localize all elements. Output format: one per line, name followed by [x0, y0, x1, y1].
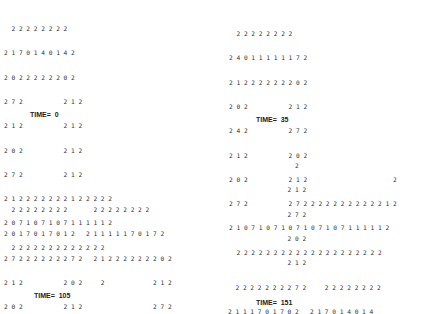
grid-row: 2 2 2 2 2 2 2 2	[229, 30, 397, 38]
panel-time-105: 2 2 2 2 2 2 2 2 2 2 2 2 2 2 2 2 2 0 1 7 …	[4, 190, 172, 314]
grid-row: 2 0 2 2 2 2 2 2 0 2	[4, 74, 112, 82]
grid-row: 2 4 0 1 1 1 1 1 1 7 2	[229, 54, 397, 62]
grid-row: 2 1 2 2 1 2	[4, 122, 112, 130]
grid-row: 2 1 2 2 2 2 2 2 2 0 2	[229, 79, 397, 87]
grid-row: 2 1 2 2 0 2 2 2 1 2	[4, 279, 172, 287]
grid-row: 2 1 2	[228, 186, 425, 194]
grid-row: 2 0 2 2 1 2	[4, 147, 112, 155]
grid-row: 2 2 2 2 2 2 2 2 7 2 2 2 2 2 2 2 2 2	[228, 284, 425, 292]
grid-row: 2 1 2	[228, 259, 425, 267]
time-label: TIME= 0	[30, 111, 59, 118]
panel-time-151: 2 2 1 2 2 7 2 2 0 2 2 1 2 2 2 2 2 2 2 2 …	[228, 146, 425, 314]
grid-row: 2 2 2 2 2 2 2 2	[4, 25, 112, 33]
cell-grid: 2 2 1 2 2 7 2 2 0 2 2 1 2 2 2 2 2 2 2 2 …	[228, 146, 425, 314]
grid-row: 2 7 2 2 1 2	[4, 98, 112, 106]
grid-row: 2 0 1 7 0 1 7 0 1 2 2 1 1 1 1 1 7 0 1 7 …	[4, 230, 172, 238]
grid-row: 2 7 2 2 1 2	[4, 171, 112, 179]
time-label: TIME= 105	[34, 292, 70, 299]
time-label: TIME= 35	[256, 116, 288, 123]
grid-row: 2 0 2	[228, 235, 425, 243]
grid-row: 2 7 2	[228, 211, 425, 219]
cell-grid: 2 2 2 2 2 2 2 2 2 2 2 2 2 2 2 2 2 0 1 7 …	[4, 190, 172, 314]
grid-row: 2 2 2 2 2 2 2 2 2 2 2 2 2 2 2 2	[4, 206, 172, 214]
grid-row: 2	[228, 162, 425, 170]
grid-row: 2 1 7 0 1 4 0 1 4 2	[4, 49, 112, 57]
grid-row: 2 1 1 1 7 0 1 7 0 2 2 1 7 0 1 4 0 1 4	[228, 308, 425, 314]
time-label: TIME= 151	[256, 299, 292, 306]
grid-row: 2 0 2 2 1 2	[229, 103, 397, 111]
grid-row: 2 4 2 2 7 2	[229, 127, 397, 135]
grid-row: 2 0 2 2 1 2 2 7 2	[4, 303, 172, 311]
grid-row: 2 7 2 2 2 2 2 2 2 7 2 2 1 2 2 2 2 2 2 2 …	[4, 255, 172, 263]
